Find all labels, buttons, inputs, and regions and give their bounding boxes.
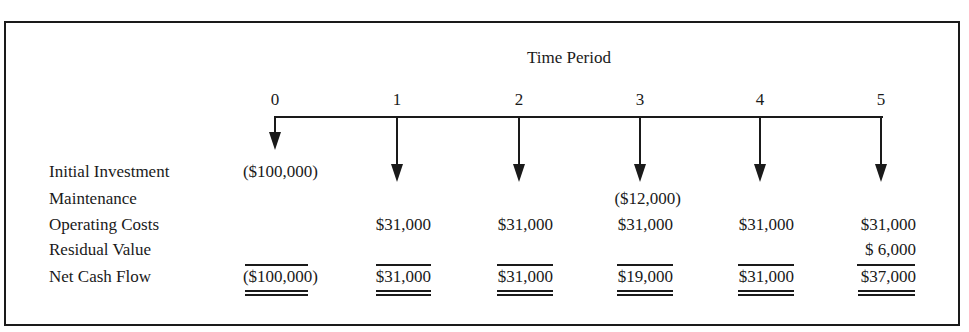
cell-maintenance-3: ($12,000) — [570, 189, 681, 209]
cell-operating-costs-1: $31,000 — [330, 215, 431, 235]
cell-residual-value-5: $ 6,000 — [815, 240, 916, 260]
double-rule-4a — [738, 290, 794, 292]
timeline-axis — [274, 116, 883, 118]
row-label-maintenance: Maintenance — [49, 189, 137, 209]
period-label-0: 0 — [260, 90, 290, 110]
cell-operating-costs-3: $31,000 — [572, 215, 673, 235]
sum-rule-3 — [617, 264, 673, 266]
timeline-stem-2 — [518, 116, 520, 164]
row-label-net-cash-flow: Net Cash Flow — [49, 267, 151, 287]
residual-underline — [857, 264, 915, 266]
cell-initial-investment-0: ($100,000) — [210, 162, 318, 182]
timeline-stem-0 — [274, 116, 276, 132]
double-rule-3b — [617, 294, 673, 296]
row-label-initial-investment: Initial Investment — [49, 162, 169, 182]
period-label-3: 3 — [625, 90, 655, 110]
sum-rule-4 — [738, 264, 794, 266]
cell-net-cash-flow-1: $31,000 — [330, 267, 431, 287]
timeline-stem-4 — [759, 116, 761, 164]
cell-net-cash-flow-5: $37,000 — [815, 267, 916, 287]
period-label-2: 2 — [504, 90, 534, 110]
cell-net-cash-flow-0: ($100,000) — [210, 267, 318, 287]
double-rule-5a — [858, 290, 915, 292]
sum-rule-1 — [376, 264, 431, 266]
period-label-4: 4 — [745, 90, 775, 110]
double-rule-1b — [376, 294, 431, 296]
cell-operating-costs-4: $31,000 — [693, 215, 794, 235]
double-rule-2a — [497, 290, 553, 292]
double-rule-1a — [376, 290, 431, 292]
cell-net-cash-flow-2: $31,000 — [452, 267, 553, 287]
cell-net-cash-flow-4: $31,000 — [693, 267, 794, 287]
arrow-down-icon — [754, 164, 766, 182]
arrow-down-icon — [269, 132, 281, 150]
cell-operating-costs-5: $31,000 — [815, 215, 916, 235]
double-rule-2b — [497, 294, 553, 296]
cell-net-cash-flow-3: $19,000 — [572, 267, 673, 287]
timeline-stem-5 — [880, 116, 882, 164]
sum-rule-0 — [245, 264, 308, 266]
double-rule-0b — [245, 294, 308, 296]
double-rule-4b — [738, 294, 794, 296]
row-label-operating-costs: Operating Costs — [49, 215, 159, 235]
double-rule-0a — [245, 290, 308, 292]
sum-rule-2 — [497, 264, 553, 266]
period-label-5: 5 — [866, 90, 896, 110]
period-label-1: 1 — [382, 90, 412, 110]
cell-operating-costs-2: $31,000 — [452, 215, 553, 235]
arrow-down-icon — [875, 164, 887, 182]
arrow-down-icon — [391, 164, 403, 182]
timeline-stem-1 — [396, 116, 398, 164]
row-label-residual-value: Residual Value — [49, 240, 151, 260]
double-rule-5b — [858, 294, 915, 296]
arrow-down-icon — [513, 164, 525, 182]
arrow-down-icon — [634, 164, 646, 182]
double-rule-3a — [617, 290, 673, 292]
timeline-title: Time Period — [527, 48, 611, 68]
timeline-stem-3 — [639, 116, 641, 164]
